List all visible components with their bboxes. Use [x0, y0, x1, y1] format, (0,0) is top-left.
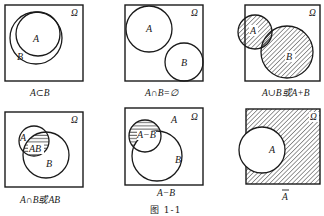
panel-complement: Ω A A	[239, 109, 320, 202]
universe-label: Ω	[191, 8, 198, 18]
set-b-label: B	[46, 158, 52, 169]
set-b-label: B	[181, 57, 187, 68]
figure-caption: 图 1-1	[150, 205, 181, 215]
set-a-label: A	[19, 132, 27, 143]
universe-label: Ω	[310, 112, 317, 122]
panel-caption: A⊂B	[29, 88, 50, 98]
set-b-label: B	[175, 154, 181, 165]
universe-label: Ω	[71, 115, 78, 125]
panel-caption: A−B	[156, 188, 175, 198]
set-b-label: B	[17, 51, 23, 62]
set-a-label: A	[145, 23, 153, 34]
set-a-label: A	[170, 114, 178, 125]
panel-union: Ω A B A∪B或A+B	[238, 5, 320, 98]
set-a-label: A	[268, 144, 276, 155]
set-a-label: A	[32, 33, 40, 44]
universe-label: Ω	[191, 112, 198, 122]
panel-caption: A∩B=∅	[144, 88, 179, 98]
panel-caption: A∪B或A+B	[261, 88, 310, 98]
venn-diagram-figure: Ω A B A⊂B Ω A B A∩B=∅ Ω A	[0, 0, 324, 216]
set-b-label: B	[286, 51, 292, 62]
panel-caption: A	[281, 192, 288, 202]
panel-difference: Ω A A−B B A−B 图 1-1	[125, 108, 203, 215]
panel-intersection: Ω A AB B A∩B或AB	[5, 112, 83, 205]
set-a-label: A	[249, 25, 257, 36]
intersection-label: AB	[28, 143, 41, 154]
universe-label: Ω	[71, 8, 78, 18]
panel-disjoint: Ω A B A∩B=∅	[125, 5, 203, 98]
panel-subset: Ω A B A⊂B	[5, 5, 83, 98]
difference-label: A−B	[136, 129, 156, 140]
panel-caption: A∩B或AB	[19, 195, 60, 205]
universe-label: Ω	[309, 8, 316, 18]
